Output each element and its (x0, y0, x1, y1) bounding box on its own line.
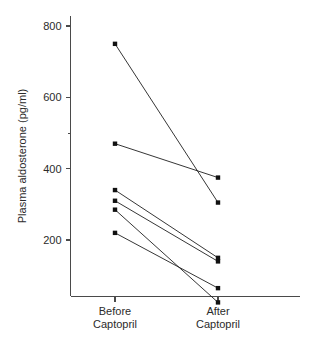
y-axis-tick-label: 600 (43, 91, 61, 103)
data-point-marker (216, 200, 220, 204)
series-line (115, 44, 218, 203)
category-label-before-line1: Before (99, 305, 131, 317)
data-series-layer (115, 44, 218, 303)
chart-plot-area (71, 16, 301, 297)
series-line (115, 144, 218, 178)
paired-line-chart: 200400600800 Before Captopril After Capt… (0, 0, 321, 348)
y-axis-ticks (66, 26, 71, 240)
series-line (115, 201, 218, 262)
category-label-before-line2: Captopril (93, 318, 137, 330)
data-point-marker (216, 286, 220, 290)
x-axis-ticks (115, 297, 218, 303)
series-line (115, 233, 218, 288)
y-axis-title: Plasma aldosterone (pg/ml) (16, 89, 28, 224)
data-point-marker (113, 42, 117, 46)
y-axis-tick-label: 200 (43, 234, 61, 246)
y-axis-tick-labels: 200400600800 (43, 20, 61, 246)
data-point-marker (113, 207, 117, 211)
data-point-marker (216, 259, 220, 263)
data-point-marker (216, 300, 220, 304)
data-point-marker (113, 199, 117, 203)
data-point-marker (113, 142, 117, 146)
y-axis-tick-label: 400 (43, 163, 61, 175)
data-point-marker (216, 175, 220, 179)
x-axis-category-labels: Before Captopril After Captopril (93, 305, 240, 330)
category-label-after-line1: After (206, 305, 230, 317)
data-point-marker (113, 188, 117, 192)
y-axis-tick-label: 800 (43, 20, 61, 32)
data-point-marker (113, 231, 117, 235)
category-label-after-line2: Captopril (196, 318, 240, 330)
